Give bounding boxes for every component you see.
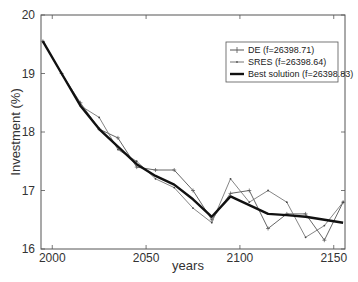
legend-item-best: Best solution (f=26398.83) xyxy=(230,69,353,79)
legend-label-best: Best solution (f=26398.83) xyxy=(248,69,353,79)
y-axis-label: Investment (%) xyxy=(8,88,23,175)
x-tick-label: 2050 xyxy=(133,251,160,265)
legend: DE (f=26398.71) SRES (f=26398.64) Best s… xyxy=(226,42,353,82)
x-tick-label: 2100 xyxy=(227,251,254,265)
y-tick-label: 19 xyxy=(22,67,36,81)
x-tick-label: 2000 xyxy=(39,251,66,265)
x-axis-label: years xyxy=(172,258,204,273)
legend-label-de: DE (f=26398.71) xyxy=(248,45,314,55)
y-tick-label: 17 xyxy=(22,184,36,198)
line-chart: 1617181920 2000205021002150 years Invest… xyxy=(0,0,358,282)
y-tick-label: 16 xyxy=(22,242,36,256)
legend-label-sres: SRES (f=26398.64) xyxy=(248,57,326,67)
y-tick-label: 20 xyxy=(22,8,36,22)
x-tick-label: 2150 xyxy=(320,251,347,265)
y-tick-label: 18 xyxy=(22,125,36,139)
